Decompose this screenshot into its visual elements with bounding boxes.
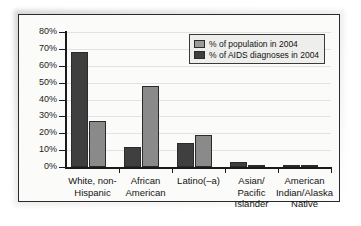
x-axis-tick <box>172 168 173 173</box>
x-axis-tick <box>331 168 332 173</box>
y-axis-label: 60% <box>19 61 57 70</box>
y-axis-label: 70% <box>19 44 57 53</box>
chart-legend: % of population in 2004 % of AIDS diagno… <box>189 34 325 64</box>
grouped-bar-chart: 0%10%20%30%40%50%60%70%80% White, non-Hi… <box>19 15 339 201</box>
category-label-line: American <box>111 187 180 199</box>
bar <box>248 165 265 168</box>
gridline <box>66 100 331 101</box>
category-label-line: Indian/Alaska <box>270 187 339 199</box>
legend-swatch-aids-diagnoses-icon <box>194 51 205 59</box>
x-axis-tick <box>119 168 120 173</box>
legend-item-population: % of population in 2004 <box>194 38 319 49</box>
y-axis-label: 0% <box>19 162 57 171</box>
y-axis-label: 50% <box>19 78 57 87</box>
y-axis-label: 30% <box>19 111 57 120</box>
gridline <box>66 32 331 33</box>
bar <box>230 162 247 167</box>
category-label-line: Native <box>270 198 339 210</box>
bar <box>124 147 141 167</box>
bar <box>195 135 212 167</box>
gridline <box>66 83 331 84</box>
y-axis-label: 80% <box>19 27 57 36</box>
gridline <box>66 66 331 67</box>
y-axis-line <box>65 31 67 168</box>
bar <box>177 143 194 167</box>
legend-label-population: % of population in 2004 <box>209 39 298 49</box>
bar <box>89 121 106 167</box>
bar <box>301 165 318 168</box>
y-axis-label: 10% <box>19 145 57 154</box>
bar <box>283 165 300 168</box>
gridline <box>66 116 331 117</box>
scanned-page: 0%10%20%30%40%50%60%70%80% White, non-Hi… <box>0 0 361 226</box>
category-label: AmericanIndian/AlaskaNative <box>270 175 339 210</box>
legend-label-aids-diagnoses: % of AIDS diagnoses in 2004 <box>209 50 319 60</box>
chart-frame: 0%10%20%30%40%50%60%70%80% White, non-Hi… <box>18 14 340 202</box>
x-axis-line <box>65 167 332 169</box>
legend-item-aids-diagnoses: % of AIDS diagnoses in 2004 <box>194 49 319 60</box>
y-axis-label: 20% <box>19 128 57 137</box>
category-label-line: American <box>270 175 339 187</box>
x-axis-tick <box>278 168 279 173</box>
x-axis-tick <box>225 168 226 173</box>
bar <box>142 86 159 167</box>
legend-swatch-population-icon <box>194 40 205 48</box>
bar <box>71 52 88 167</box>
y-axis-label: 40% <box>19 95 57 104</box>
